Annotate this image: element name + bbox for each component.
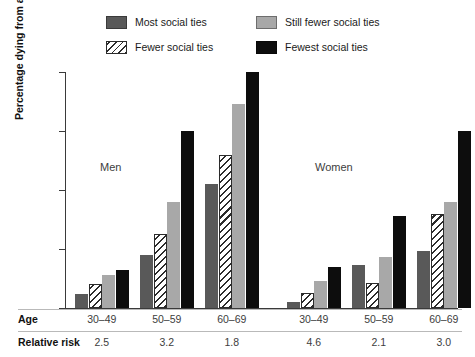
bar-group — [205, 72, 259, 308]
relative-risk-cell: 2.5 — [69, 336, 135, 348]
axis-annotation-table: Age Relative risk 30–4950–5960–6930–4950… — [0, 309, 470, 357]
relative-risk-cell: 3.2 — [134, 336, 200, 348]
bar — [205, 184, 218, 308]
bar — [116, 270, 129, 308]
legend-entry-most-social-ties: Most social ties — [106, 16, 207, 29]
bar — [458, 131, 471, 308]
bar — [417, 251, 430, 308]
bar — [102, 275, 115, 308]
bar — [314, 281, 327, 308]
age-cell: 60–69 — [199, 313, 265, 325]
bar-group — [352, 72, 406, 308]
legend-entry-fewer-social-ties: Fewer social ties — [106, 41, 213, 54]
bar — [181, 131, 194, 308]
bar — [89, 284, 102, 308]
legend-label-fewest-social-ties: Fewest social ties — [285, 41, 368, 54]
legend-swatch-fewer-social-ties — [106, 41, 127, 54]
legend-label-most-social-ties: Most social ties — [135, 16, 207, 29]
bar — [140, 255, 153, 308]
bar — [379, 257, 392, 308]
bar — [154, 234, 167, 308]
y-axis-tick — [59, 249, 65, 250]
bar — [431, 214, 444, 308]
legend-swatch-fewest-social-ties — [256, 41, 277, 54]
chart-plot-area: Percentage dying from all causes 0102030… — [65, 72, 458, 309]
age-cell: 60–69 — [411, 313, 475, 325]
relative-risk-cell: 1.8 — [199, 336, 265, 348]
age-cell: 50–59 — [134, 313, 200, 325]
legend-entry-fewest-social-ties: Fewest social ties — [256, 41, 368, 54]
relative-risk-cell: 3.0 — [411, 336, 475, 348]
bar-group — [417, 72, 471, 308]
bar-group — [75, 72, 129, 308]
legend-swatch-still-fewer-social-ties — [256, 16, 277, 29]
age-cell: 50–59 — [346, 313, 412, 325]
bar — [352, 265, 365, 308]
age-cell: 30–49 — [281, 313, 347, 325]
bar — [167, 202, 180, 308]
legend-entry-still-fewer-social-ties: Still fewer social ties — [256, 16, 380, 29]
bar — [75, 294, 88, 308]
bar-group — [287, 72, 341, 308]
y-axis-title: Percentage dying from all causes — [13, 0, 25, 120]
y-axis-line — [65, 72, 66, 309]
y-axis-tick — [59, 131, 65, 132]
bar — [444, 202, 457, 308]
bar — [393, 216, 406, 308]
table-rule-top — [18, 309, 462, 310]
table-rule-middle — [18, 331, 462, 332]
bar-group — [140, 72, 194, 308]
bar — [219, 155, 232, 308]
age-cell: 30–49 — [69, 313, 135, 325]
legend-swatch-most-social-ties — [106, 16, 127, 29]
bar — [366, 283, 379, 308]
bar — [246, 72, 259, 308]
y-axis-tick — [59, 190, 65, 191]
row-header-age: Age — [18, 313, 38, 325]
relative-risk-cell: 4.6 — [281, 336, 347, 348]
bar — [328, 267, 341, 308]
bar — [301, 293, 314, 308]
relative-risk-cell: 2.1 — [346, 336, 412, 348]
bar — [287, 302, 300, 308]
legend-label-still-fewer-social-ties: Still fewer social ties — [285, 16, 380, 29]
legend-label-fewer-social-ties: Fewer social ties — [135, 41, 213, 54]
chart-legend: Most social ties Fewer social ties Still… — [0, 0, 470, 62]
bar — [232, 104, 245, 308]
y-axis-tick — [59, 72, 65, 73]
